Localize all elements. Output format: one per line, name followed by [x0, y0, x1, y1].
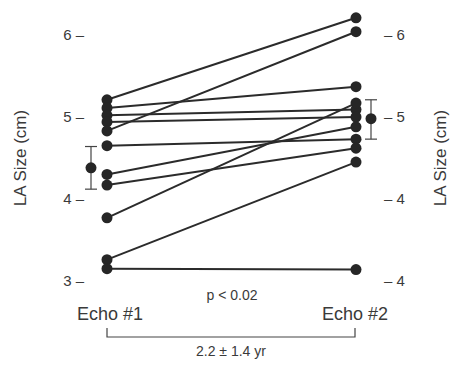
series-line-patient-1: [107, 18, 356, 100]
category-label-echo-1: Echo #1: [77, 304, 143, 324]
point-echo2-patient-8: [351, 143, 362, 154]
right-y-axis: – 6– 5– 4– 4: [384, 26, 405, 289]
left-tick-label: 3 –: [63, 272, 85, 289]
interval-bracket: [107, 328, 355, 337]
category-label-echo-2: Echo #2: [322, 304, 388, 324]
point-echo2-patient-9: [351, 98, 362, 109]
series-line-patient-6: [107, 139, 356, 146]
left-tick-label: 5 –: [63, 108, 85, 125]
series-line-patient-11: [107, 269, 356, 270]
left-y-axis: 6 –5 –4 –3 –: [63, 26, 85, 289]
point-echo2-patient-1: [351, 12, 362, 23]
point-echo1-patient-6: [102, 140, 113, 151]
point-echo2-patient-2: [351, 81, 362, 92]
point-echo2-patient-10: [351, 157, 362, 168]
right-tick-label: – 6: [384, 26, 405, 43]
p-value-label: p < 0.02: [207, 287, 258, 303]
mean-point-2: [366, 113, 377, 124]
point-echo1-patient-7: [102, 169, 113, 180]
paired-lines: [107, 18, 356, 270]
point-echo2-patient-11: [351, 264, 362, 275]
point-echo2-patient-5: [351, 26, 362, 37]
series-line-patient-5: [107, 32, 356, 131]
interval-label: 2.2 ± 1.4 yr: [196, 343, 266, 359]
series-line-patient-2: [107, 87, 356, 108]
point-echo1-patient-9: [102, 212, 113, 223]
mean-point-1: [86, 162, 97, 173]
data-points: [102, 12, 362, 275]
right-tick-label: – 4: [384, 272, 405, 289]
point-echo2-patient-4: [351, 112, 362, 123]
right-tick-label: – 4: [384, 190, 405, 207]
series-line-patient-3: [107, 110, 356, 116]
left-tick-label: 6 –: [63, 26, 85, 43]
point-echo1-patient-11: [102, 263, 113, 274]
right-y-axis-title: LA Size (cm): [431, 110, 450, 206]
point-echo2-patient-7: [351, 121, 362, 132]
point-echo1-patient-5: [102, 125, 113, 136]
left-y-axis-title: LA Size (cm): [11, 110, 30, 206]
paired-line-chart: 6 –5 –4 –3 – – 6– 5– 4– 4 LA Size (cm) L…: [0, 0, 464, 376]
left-tick-label: 4 –: [63, 190, 85, 207]
point-echo1-patient-8: [102, 180, 113, 191]
series-line-patient-10: [107, 162, 356, 260]
right-tick-label: – 5: [384, 108, 405, 125]
